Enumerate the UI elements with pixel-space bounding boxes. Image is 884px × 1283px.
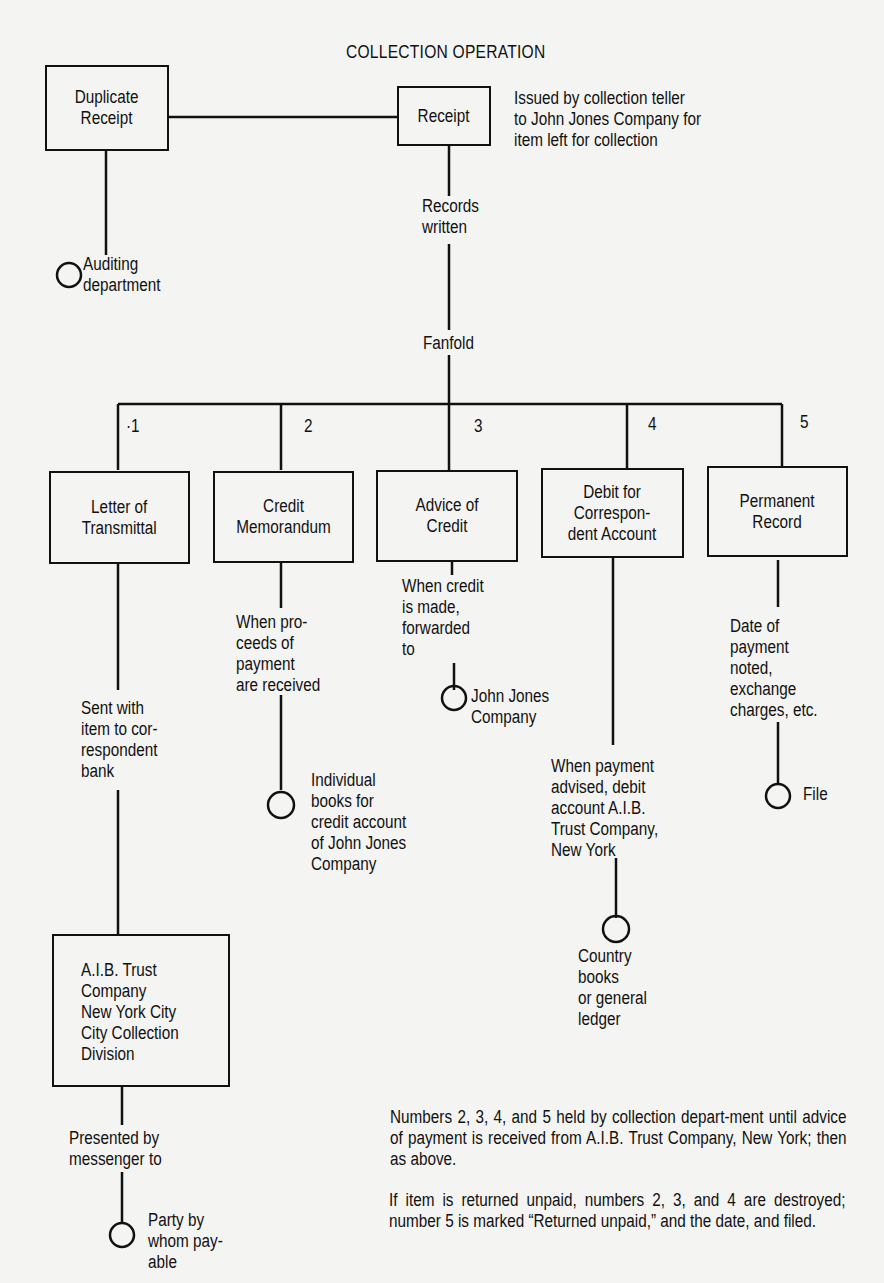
terminal-circle-country-books [603, 916, 629, 942]
node-fanfold: Fanfold [423, 333, 474, 354]
terminal-circle-auditing [57, 263, 81, 287]
node-label: Permanent Record [740, 491, 815, 533]
note-party-by-whom-payable: Party by whom pay- able [148, 1210, 223, 1273]
node-debit-correspondent-account: Debit for Correspon- dent Account [541, 468, 684, 558]
node-advice-of-credit: Advice of Credit [376, 470, 518, 562]
node-auditing-department: Auditing department [83, 254, 160, 296]
note-presented-by-messenger: Presented by messenger to [69, 1128, 162, 1170]
node-aib-trust-company: A.I.B. Trust Company New York City City … [52, 934, 230, 1087]
note-date-of-payment: Date of payment noted, exchange charges,… [730, 616, 818, 721]
collection-operation-diagram: COLLECTION OPERATION Duplicate Receipt R… [0, 0, 884, 1283]
note-john-jones-company: John Jones Company [471, 686, 549, 728]
footnote-returned-unpaid: If item is returned unpaid, numbers 2, 3… [389, 1190, 845, 1232]
node-label: Advice of Credit [416, 495, 479, 537]
copy-number-5: 5 [800, 412, 809, 433]
node-label: Receipt [418, 106, 470, 127]
terminal-circle-individual-books [268, 792, 294, 818]
node-label: Credit Memorandum [236, 496, 330, 538]
receipt-note: Issued by collection teller to John Jone… [514, 88, 701, 151]
node-receipt: Receipt [397, 86, 491, 146]
terminal-circle-party-payable [110, 1223, 134, 1247]
node-permanent-record: Permanent Record [707, 466, 848, 557]
terminal-circle-file [766, 784, 790, 808]
note-sent-with-item: Sent with item to cor- respondent bank [81, 698, 158, 782]
copy-number-3: 3 [474, 416, 483, 437]
node-records-written: Records written [422, 196, 479, 238]
note-when-credit: When credit is made, forwarded to [402, 576, 484, 660]
copy-number-4: 4 [648, 414, 657, 435]
node-letter-of-transmittal: Letter of Transmittal [49, 471, 190, 564]
footnote-held-by-collection: Numbers 2, 3, 4, and 5 held by collectio… [390, 1107, 846, 1170]
node-credit-memorandum: Credit Memorandum [213, 471, 354, 563]
node-label: Letter of Transmittal [82, 497, 157, 539]
node-label: Duplicate Receipt [75, 87, 139, 129]
note-country-books: Country books or general ledger [578, 946, 647, 1030]
note-individual-books: Individual books for credit account of J… [311, 770, 406, 875]
copy-number-1: ·1 [126, 416, 140, 437]
node-label: A.I.B. Trust Company New York City City … [81, 960, 179, 1065]
diagram-title: COLLECTION OPERATION [346, 41, 545, 63]
note-file: File [803, 784, 828, 805]
note-when-payment: When payment advised, debit account A.I.… [551, 756, 658, 861]
node-duplicate-receipt: Duplicate Receipt [45, 65, 169, 151]
note-when-proceeds: When pro- ceeds of payment are received [236, 612, 320, 696]
node-label: Debit for Correspon- dent Account [568, 482, 656, 545]
copy-number-2: 2 [304, 416, 313, 437]
